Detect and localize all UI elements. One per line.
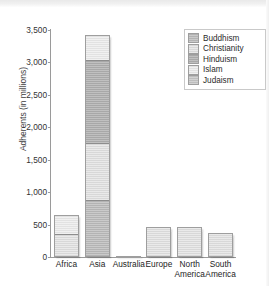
legend-item-islam[interactable]: Islam: [188, 65, 262, 75]
y-tick-label: 3,000: [26, 57, 47, 67]
y-tick-label: 2,000: [26, 122, 47, 132]
legend-swatch-christianity: [188, 44, 199, 54]
y-tick-label: 500: [33, 220, 47, 230]
y-tick-mark: [48, 225, 51, 226]
bar-segment-hinduism[interactable]: [85, 61, 110, 144]
x-axis-label-asia: Asia: [82, 260, 113, 270]
bar-segment-buddhism[interactable]: [85, 201, 110, 257]
legend-label: Islam: [203, 65, 223, 74]
bar-slot: [116, 30, 141, 257]
legend-swatch-judaism: [188, 75, 199, 85]
legend-label: Christianity: [203, 44, 244, 53]
bar-segment-christianity[interactable]: [85, 144, 110, 201]
legend-swatch-islam: [188, 65, 199, 75]
bar-segment-islam[interactable]: [85, 35, 110, 62]
bar-segment-christianity[interactable]: [177, 227, 202, 257]
y-tick-mark: [48, 62, 51, 63]
y-tick-label: 0: [42, 252, 47, 262]
y-tick-mark: [48, 257, 51, 258]
stacked-bar[interactable]: [146, 227, 171, 257]
x-axis-label-africa: Africa: [51, 260, 82, 270]
bar-segment-christianity[interactable]: [146, 227, 171, 257]
stacked-bar[interactable]: [85, 35, 110, 257]
y-tick-mark: [48, 30, 51, 31]
y-tick-mark: [48, 95, 51, 96]
bar-slot: [146, 30, 171, 257]
bar-segment-islam[interactable]: [54, 215, 79, 235]
bar-slot: [54, 30, 79, 257]
bar-slot: [85, 30, 110, 257]
stacked-bar-chart: Adherents (in millions) 05001,0001,5002,…: [0, 0, 269, 286]
stacked-bar[interactable]: [177, 227, 202, 257]
legend-item-judaism[interactable]: Judaism: [188, 75, 262, 85]
legend-item-buddhism[interactable]: Buddhism: [188, 33, 262, 43]
legend-swatch-hinduism: [188, 54, 199, 64]
x-axis-label-north-america: North America: [174, 260, 205, 279]
y-tick-label: 1,000: [26, 187, 47, 197]
legend-item-hinduism[interactable]: Hinduism: [188, 54, 262, 64]
stacked-bar[interactable]: [208, 233, 233, 257]
legend-label: Hinduism: [203, 55, 237, 64]
x-axis-label-australia: Australia: [113, 260, 144, 270]
bar-segment-christianity[interactable]: [54, 235, 79, 257]
bar-segment-christianity[interactable]: [208, 233, 233, 257]
stacked-bar[interactable]: [116, 256, 141, 257]
y-tick-label: 1,500: [26, 155, 47, 165]
x-axis-line: [50, 257, 236, 258]
x-axis-label-south-america: South America: [205, 260, 236, 279]
stacked-bar[interactable]: [54, 215, 79, 257]
legend-label: Judaism: [203, 76, 234, 85]
y-tick-mark: [48, 127, 51, 128]
legend: BuddhismChristianityHinduismIslamJudaism: [184, 29, 266, 90]
y-tick-mark: [48, 160, 51, 161]
legend-item-christianity[interactable]: Christianity: [188, 44, 262, 54]
legend-swatch-buddhism: [188, 33, 199, 43]
y-tick-label: 2,500: [26, 90, 47, 100]
y-tick-label: 3,500: [26, 25, 47, 35]
y-tick-mark: [48, 192, 51, 193]
x-axis-label-europe: Europe: [144, 260, 175, 270]
legend-label: Buddhism: [203, 34, 239, 43]
